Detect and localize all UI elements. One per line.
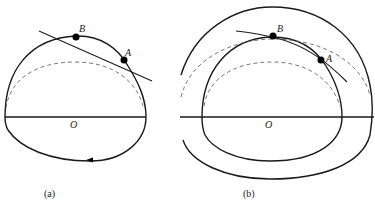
panel-b-center-label: O: [265, 119, 272, 130]
panel-a-dashed-arc: [6, 62, 143, 108]
panel-a-direction-arrow-icon: [86, 158, 93, 163]
panel-a-point-b: [73, 34, 80, 41]
panel-b-outer-dashed-arc: [181, 39, 370, 97]
panel-a-label-a: A: [124, 47, 132, 58]
panel-b-label-b: B: [277, 23, 283, 34]
panel-b-label-a: A: [325, 53, 333, 64]
panel-b-caption: (b): [243, 188, 255, 200]
panel-b-point-a: [318, 57, 325, 64]
panel-b: B A O (b): [180, 7, 374, 200]
panel-a: B A O (a): [5, 23, 152, 200]
diagram-canvas: B A O (a) B A O (b): [0, 0, 375, 205]
panel-b-point-b: [270, 33, 277, 40]
panel-b-inner-boundary: [202, 37, 342, 161]
panel-a-caption: (a): [44, 188, 55, 200]
panel-b-inner-dashed-arc: [204, 62, 340, 106]
panel-a-center-label: O: [70, 119, 77, 130]
panel-a-label-b: B: [79, 23, 85, 34]
